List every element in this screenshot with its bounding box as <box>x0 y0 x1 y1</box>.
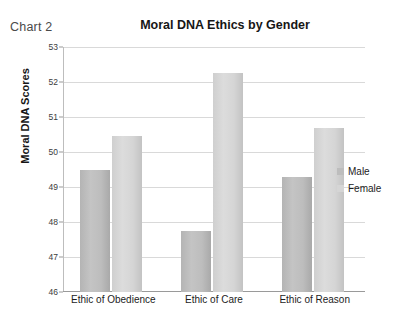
chart-legend: MaleFemale <box>337 163 381 197</box>
bar-female[interactable] <box>314 128 344 293</box>
y-tick-label: 48 <box>49 217 58 227</box>
y-tick-label: 47 <box>49 252 58 262</box>
bar-male[interactable] <box>181 231 211 292</box>
bar-male[interactable] <box>80 170 110 293</box>
bar-female[interactable] <box>112 136 142 292</box>
chart-container: Chart 2 Moral DNA Ethics by Gender Moral… <box>0 0 410 324</box>
legend-swatch-icon <box>337 168 344 175</box>
legend-label: Male <box>348 166 370 177</box>
legend-swatch-icon <box>337 185 344 192</box>
legend-label: Female <box>348 183 381 194</box>
bar-male[interactable] <box>282 177 312 293</box>
y-axis-title: Moral DNA Scores <box>19 46 31 186</box>
bars-layer <box>63 47 365 292</box>
x-tick-label: Ethic of Obedience <box>63 294 164 305</box>
x-axis-labels: Ethic of ObedienceEthic of CareEthic of … <box>63 294 365 305</box>
chart-corner-label: Chart 2 <box>10 20 52 34</box>
bar-female[interactable] <box>213 73 243 292</box>
plot-area: 5352515049484746 <box>63 47 365 292</box>
x-tick-label: Ethic of Reason <box>264 294 365 305</box>
y-tick-label: 51 <box>49 112 58 122</box>
y-tick-label: 49 <box>49 182 58 192</box>
y-tick-label: 50 <box>49 147 58 157</box>
y-tick-label: 53 <box>49 42 58 52</box>
x-tick-label: Ethic of Care <box>164 294 265 305</box>
chart-title: Moral DNA Ethics by Gender <box>110 18 340 32</box>
legend-item-female[interactable]: Female <box>337 180 381 197</box>
y-tick-label: 52 <box>49 77 58 87</box>
y-tick-label: 46 <box>49 287 58 297</box>
bar-group <box>164 47 265 292</box>
bar-group <box>63 47 164 292</box>
legend-item-male[interactable]: Male <box>337 163 381 180</box>
